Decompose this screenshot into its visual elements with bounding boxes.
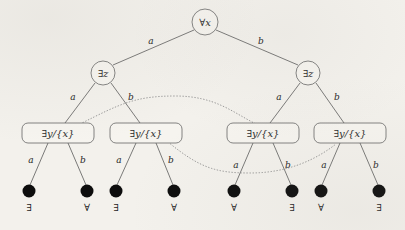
node-box-1[interactable]: ∃y/{x}: [22, 123, 94, 143]
edge-right-exists-to-box4: [316, 83, 344, 123]
leaf-label-6: ∃: [289, 202, 294, 213]
box4-label: ∃y/{x}: [334, 128, 367, 139]
leaf-label-4: ∀: [171, 202, 177, 213]
edge-label-b1-b: b: [80, 155, 86, 165]
leaf-dot-2[interactable]: [81, 185, 94, 198]
leaf-dot-7[interactable]: [315, 185, 328, 198]
leaf-label-5: ∀: [231, 202, 237, 213]
leaf-label-2: ∀: [84, 202, 90, 213]
edge-label-b4-b: b: [373, 160, 379, 170]
box3-label: ∃y/{x}: [247, 128, 280, 139]
right-exists-node-label: ∃z: [303, 68, 314, 79]
arc-upper-imperfect-information: [80, 96, 256, 124]
edge-label-b3-b: b: [285, 160, 291, 170]
edge-label-l2l-b: b: [128, 92, 134, 102]
tree-figure: ∀x ∃z ∃z ∃y/{x} ∃y/{x} ∃y/{x} ∃y/{x}: [0, 0, 405, 230]
edge-label-l2l-a: a: [70, 92, 75, 102]
leaf-nodes-group: [23, 185, 386, 198]
node-box-4[interactable]: ∃y/{x}: [314, 123, 386, 143]
node-box-3[interactable]: ∃y/{x}: [227, 123, 299, 143]
leaf-label-3: ∃: [113, 202, 118, 213]
edge-label-b2-a: a: [116, 155, 121, 165]
root-node-label: ∀x: [199, 17, 211, 28]
node-left-exists[interactable]: ∃z: [91, 61, 115, 85]
edge-label-root-a: a: [148, 36, 153, 46]
left-exists-node-label: ∃z: [98, 68, 109, 79]
node-root[interactable]: ∀x: [192, 9, 218, 35]
leaf-dot-4[interactable]: [168, 185, 181, 198]
leaf-dot-3[interactable]: [110, 185, 123, 198]
edge-label-l2r-b: b: [334, 92, 340, 102]
leaf-label-8: ∃: [376, 202, 381, 213]
leaf-dot-1[interactable]: [23, 185, 36, 198]
node-box-2[interactable]: ∃y/{x}: [110, 123, 182, 143]
edge-label-l2r-a: a: [276, 92, 281, 102]
leaf-label-1: ∃: [26, 202, 31, 213]
edge-left-exists-to-box1: [65, 83, 95, 123]
edge-labels-group: a b a b a b a b a b a b a b: [28, 36, 379, 170]
edge-right-exists-to-box3: [270, 83, 300, 123]
leaf-labels-group: ∃ ∀ ∃ ∀ ∀ ∃ ∀ ∃: [26, 202, 381, 213]
edge-label-b3-a: a: [233, 160, 238, 170]
edge-left-exists-to-box2: [111, 83, 140, 123]
edge-label-b1-a: a: [28, 155, 33, 165]
leaf-dot-5[interactable]: [228, 185, 241, 198]
leaf-dot-6[interactable]: [286, 185, 299, 198]
edge-label-b4-a: a: [321, 160, 326, 170]
tree-diagram: ∀x ∃z ∃z ∃y/{x} ∃y/{x} ∃y/{x} ∃y/{x}: [0, 0, 405, 230]
arc-lower-imperfect-information: [168, 142, 336, 173]
leaf-dot-8[interactable]: [373, 185, 386, 198]
box2-label: ∃y/{x}: [130, 128, 163, 139]
edge-label-b2-b: b: [168, 155, 174, 165]
edge-root-to-right-exists: [216, 30, 298, 65]
edge-label-root-b: b: [258, 36, 264, 46]
leaf-label-7: ∀: [318, 202, 324, 213]
box1-label: ∃y/{x}: [42, 128, 75, 139]
node-right-exists[interactable]: ∃z: [296, 61, 320, 85]
